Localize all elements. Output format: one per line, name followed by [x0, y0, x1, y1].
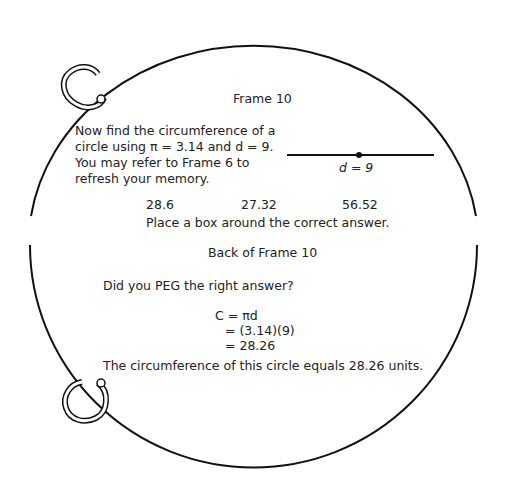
- conclusion-text: The circumference of this circle equals …: [103, 358, 423, 374]
- back-title: Back of Frame 10: [208, 245, 317, 261]
- work-line-2: = (3.14)(9): [225, 323, 295, 339]
- back-of-frame: Back of Frame 10 Did you PEG the right a…: [0, 0, 507, 491]
- work-line-1: C = πd: [215, 308, 258, 324]
- back-question: Did you PEG the right answer?: [103, 278, 294, 294]
- work-line-3: = 28.26: [225, 338, 275, 354]
